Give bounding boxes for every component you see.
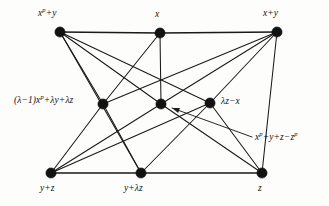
node-label-bottom-left: y+z (40, 184, 55, 194)
node-label-top-left: xp+y (38, 9, 57, 19)
graph-vertex-bottom-right (257, 168, 267, 178)
node-label-top-middle: x (155, 10, 159, 20)
graph-vertex-top-middle (155, 28, 165, 38)
graph-edge (51, 104, 161, 173)
graph-vertex-middle-right (205, 98, 215, 108)
callout-label: xp+y+z−zp (255, 133, 298, 143)
vertices-group (46, 27, 282, 178)
graph-figure: xp+y x x+y (λ−1)xp+λy+λz λz−x xp+y+z−zp … (0, 0, 329, 206)
graph-edge (160, 33, 161, 104)
graph-edge (161, 104, 262, 173)
graph-vertex-bottom-left (46, 168, 56, 178)
node-label-middle-left: (λ−1)xp+λy+λz (14, 96, 73, 106)
graph-vertex-top-left (55, 27, 65, 37)
graph-edge (60, 32, 161, 104)
graph-vertex-bottom-middle (136, 168, 146, 178)
graph-edge (160, 32, 277, 33)
node-label-bottom-middle: y+λz (124, 184, 143, 194)
graph-edge (262, 32, 277, 173)
node-label-bottom-right: z (258, 184, 262, 194)
callout-arrow (172, 108, 252, 137)
graph-edge (51, 104, 103, 173)
graph-edge (60, 32, 210, 103)
node-label-top-right: x+y (263, 9, 278, 19)
graph-vertex-top-right (272, 27, 282, 37)
graph-vertex-middle-center (156, 99, 166, 109)
callout-arrow-shaft (172, 108, 252, 137)
graph-edge (60, 32, 160, 33)
node-label-middle-right: λz−x (221, 97, 240, 107)
graph-vertex-middle-left (98, 99, 108, 109)
